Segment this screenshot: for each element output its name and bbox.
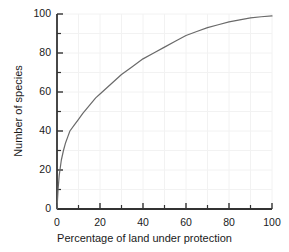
x-tick-label: 0: [42, 216, 72, 228]
y-axis-title: Number of species: [12, 41, 24, 181]
y-tick-label: 80: [21, 46, 51, 58]
y-tick-label: 100: [21, 7, 51, 19]
x-tick-label: 100: [257, 216, 287, 228]
y-tick-label: 20: [21, 163, 51, 175]
x-axis-title: Percentage of land under protection: [0, 232, 289, 244]
x-tick-label: 80: [214, 216, 244, 228]
x-tick-label: 20: [85, 216, 115, 228]
x-tick-label: 60: [171, 216, 201, 228]
y-tick-label: 0: [21, 202, 51, 214]
y-tick-label: 60: [21, 85, 51, 97]
y-tick-label: 40: [21, 124, 51, 136]
x-tick-label: 40: [128, 216, 158, 228]
